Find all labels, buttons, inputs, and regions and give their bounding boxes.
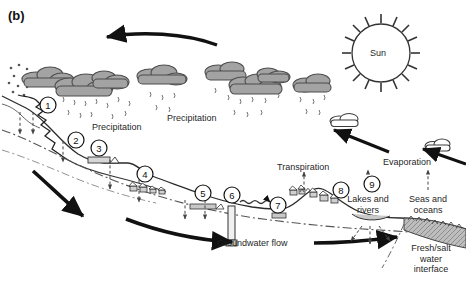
svg-text:7: 7 [275,200,280,211]
label-seas-and-oceans: Seas and oceans [401,194,455,215]
arrow-groundwater-upper-left [33,171,83,216]
cloud-gray [92,71,129,89]
svg-text:5: 5 [200,188,205,199]
label-sun: Sun [370,48,386,58]
label-lakes-and-rivers: Lakes and rivers [341,194,395,215]
callout-1-snowmelt: 1 [40,97,56,113]
label-transpiration: Transpiration [277,162,329,172]
cloud-group-white [330,114,450,152]
svg-text:1: 1 [45,100,50,111]
svg-text:3: 3 [96,143,101,154]
arrow-vapor-rise-to-cloud [334,130,389,152]
water-table-secondary [2,150,156,203]
callout-3-upland-abstraction: 3 [91,140,107,156]
arrow-atmospheric-transport-westward [107,34,217,45]
panel-tag: (b) [8,8,25,23]
cloud-white-vapor-upper [330,114,358,127]
settlement-5-spring [190,204,224,209]
svg-text:6: 6 [229,190,234,201]
cloud-white-vapor-lower [425,139,450,151]
settlement-4-village [129,182,165,194]
cloud-gray [293,74,331,92]
arrow-groundwater-lower-right [314,237,397,243]
settlement-3 [88,157,119,163]
label-evaporation: Evaporation [383,157,431,167]
callout-4-village: 4 [137,166,153,182]
cloud-gray [257,68,290,83]
settlement-7 [272,213,286,218]
callout-7-lowland-supply: 7 [270,197,286,213]
callout-2-runoff: 2 [68,132,84,148]
cloud-group-gray [22,62,331,96]
callout-9-surface-water: 9 [364,176,380,192]
label-fresh-salt-interface: Fresh/salt water interface [404,243,458,275]
callout-5-spring: 5 [195,185,211,201]
callout-6-well: 6 [224,187,240,203]
label-groundwater-flow: Groundwater flow [217,238,288,248]
svg-text:2: 2 [73,135,78,146]
cloud-gray [137,65,187,85]
svg-text:4: 4 [142,169,147,180]
svg-text:9: 9 [369,179,374,190]
stream-tributary [2,104,40,128]
label-precipitation-left: Precipitation [92,122,142,132]
label-precipitation-right: Precipitation [167,113,217,123]
surface-flow-wiggle [240,201,270,204]
